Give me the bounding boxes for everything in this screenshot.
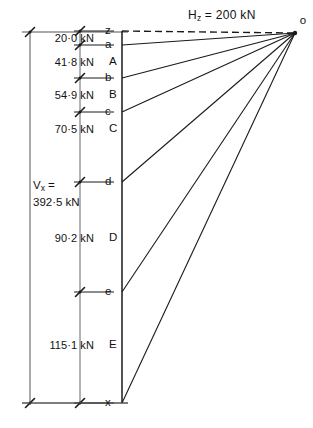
tick-mark-b-dot xyxy=(79,77,82,80)
tick-mark-c-dot xyxy=(79,111,82,114)
force-value-d-e: 90·2 kN xyxy=(28,233,94,244)
force-value-e-x: 115·1 kN xyxy=(28,340,94,351)
node-label-C: C xyxy=(109,123,117,135)
node-label-e: e xyxy=(105,286,111,298)
force-value-z-a: 20·0 kN xyxy=(28,33,94,44)
pole-label: o xyxy=(300,15,306,27)
pole-marker xyxy=(293,31,297,35)
ray-line-x xyxy=(122,33,295,403)
force-value-b-c: 54·9 kN xyxy=(28,90,94,101)
force-value-c-d: 70·5 kN xyxy=(28,124,94,135)
tick-mark-a-dot xyxy=(79,44,82,47)
ray-lines-group xyxy=(122,31,295,403)
node-label-x: x xyxy=(105,397,111,409)
node-label-c: c xyxy=(105,106,111,118)
node-label-d: d xyxy=(105,176,111,188)
node-label-D: D xyxy=(109,232,117,244)
vertical-total-label: Vx =392·5 kN xyxy=(33,178,80,210)
ray-line-z xyxy=(122,31,295,33)
node-label-E: E xyxy=(109,339,117,351)
force-value-a-b: 41·8 kN xyxy=(28,57,94,68)
tick-mark-e-dot xyxy=(79,291,82,294)
pole-marker-group xyxy=(293,31,297,35)
ray-line-e xyxy=(122,33,295,292)
node-label-b: b xyxy=(105,72,111,84)
node-label-B: B xyxy=(109,89,117,101)
node-label-z: z xyxy=(105,25,111,37)
node-label-A: A xyxy=(109,56,117,68)
ray-line-a xyxy=(122,33,295,45)
horizontal-thrust-label: Hz = 200 kN xyxy=(188,9,256,23)
force-polygon-figure: Hz = 200 kN o Vx =392·5 kN 20·0 kN41·8 k… xyxy=(0,0,313,428)
node-label-a: a xyxy=(105,39,111,51)
